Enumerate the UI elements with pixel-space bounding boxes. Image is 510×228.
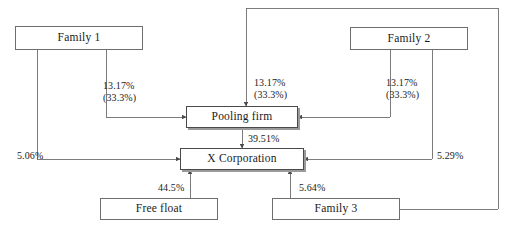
edge-label-freefloat-to-xcorp-value: 44.5% bbox=[158, 182, 184, 193]
diagram-canvas: Family 1 Family 2 Pooling firm X Corpora… bbox=[0, 0, 510, 228]
edge-label-family1-to-poolingfirm: 13.17% (33.3%) bbox=[103, 80, 136, 103]
edge-label-family3-to-poolingfirm: 13.17% (33.3%) bbox=[254, 77, 287, 100]
edge-label-family1-to-poolingfirm-value: 13.17% bbox=[103, 80, 134, 91]
node-free-float[interactable]: Free float bbox=[100, 198, 218, 220]
node-x-corporation-label: X Corporation bbox=[207, 153, 276, 165]
node-family1[interactable]: Family 1 bbox=[15, 26, 143, 50]
edge-label-freefloat-to-xcorp: 44.5% bbox=[158, 182, 184, 194]
edge-label-family2-to-xcorp: 5.29% bbox=[437, 150, 463, 162]
edge-family1-to-xcorp bbox=[37, 50, 180, 159]
node-x-corporation[interactable]: X Corporation bbox=[180, 148, 304, 170]
edge-label-family3-to-xcorp: 5.64% bbox=[299, 182, 325, 194]
edge-family2-to-xcorp bbox=[304, 50, 432, 159]
node-family2-label: Family 2 bbox=[388, 33, 431, 45]
edge-label-family2-to-poolingfirm-value: 13.17% bbox=[386, 77, 417, 88]
edge-label-family1-to-xcorp: 5.06% bbox=[17, 150, 43, 162]
node-family3-label: Family 3 bbox=[315, 203, 358, 215]
node-family3[interactable]: Family 3 bbox=[272, 198, 400, 220]
edge-label-family3-to-xcorp-value: 5.64% bbox=[299, 182, 325, 193]
edge-label-family3-to-poolingfirm-sub: (33.3%) bbox=[254, 89, 287, 101]
node-family1-label: Family 1 bbox=[58, 32, 101, 44]
edge-label-family2-to-poolingfirm: 13.17% (33.3%) bbox=[386, 77, 419, 100]
node-family2[interactable]: Family 2 bbox=[350, 27, 468, 50]
node-pooling-firm[interactable]: Pooling firm bbox=[186, 106, 298, 128]
edge-label-family1-to-poolingfirm-sub: (33.3%) bbox=[103, 92, 136, 104]
edge-family2-to-poolingfirm bbox=[298, 50, 390, 117]
edge-label-family2-to-xcorp-value: 5.29% bbox=[437, 150, 463, 161]
edge-label-family2-to-poolingfirm-sub: (33.3%) bbox=[386, 89, 419, 101]
node-free-float-label: Free float bbox=[136, 203, 182, 215]
edge-label-family1-to-xcorp-value: 5.06% bbox=[17, 150, 43, 161]
edge-label-family3-to-poolingfirm-value: 13.17% bbox=[254, 77, 285, 88]
edge-label-poolingfirm-to-xcorp-value: 39.51% bbox=[248, 133, 279, 144]
node-pooling-firm-label: Pooling firm bbox=[212, 111, 273, 123]
edge-label-poolingfirm-to-xcorp: 39.51% bbox=[248, 133, 279, 145]
